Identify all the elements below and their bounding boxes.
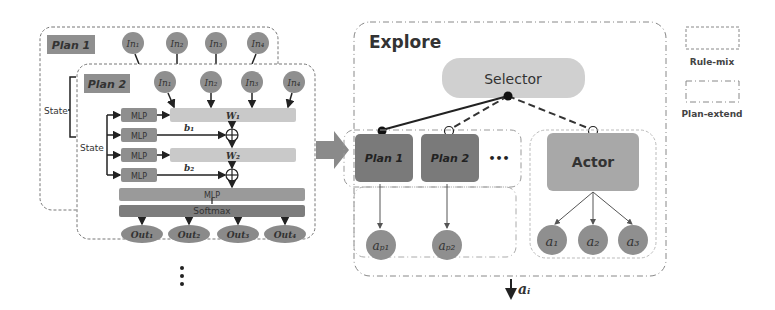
actor-action-2: a₂ xyxy=(587,234,600,249)
plan2-input-2: In₂ xyxy=(204,78,218,88)
plus-node-2 xyxy=(226,169,238,181)
state-label-outer: State xyxy=(44,106,68,116)
explore-plans-ellipsis: ••• xyxy=(488,152,509,165)
plan2-input-1: In₁ xyxy=(158,78,172,88)
w2-label: W₂ xyxy=(226,151,240,161)
softmax-bar-label: Softmax xyxy=(193,206,231,216)
actor-label: Actor xyxy=(572,154,614,170)
legend-plan-extend-swatch xyxy=(686,81,739,102)
plan1-input-1: In₁ xyxy=(126,39,140,49)
output-action: aᵢ xyxy=(518,281,530,297)
mlp-2: MLP xyxy=(131,132,147,141)
plan1-input-2: In₂ xyxy=(170,39,184,49)
actor-action-1: a₁ xyxy=(546,234,559,249)
output-4: Out₄ xyxy=(274,230,297,240)
explore-plan2-label: Plan 2 xyxy=(431,152,470,165)
plus-node-1 xyxy=(226,129,238,141)
mlp-1: MLP xyxy=(131,112,147,121)
explore-panel: Explore Selector Plan 1 Plan 2 ••• aₚ₁ a… xyxy=(344,22,666,276)
actor-action-3: a₃ xyxy=(627,234,640,249)
output-1: Out₁ xyxy=(131,230,154,240)
selector-label: Selector xyxy=(484,71,542,87)
plan1-input-4: In₄ xyxy=(251,39,265,49)
legend-rule-mix-swatch xyxy=(686,27,739,49)
plan2-input-3: In₃ xyxy=(245,78,259,88)
state-label-inner: State xyxy=(80,143,104,153)
plan-action-1: aₚ₁ xyxy=(373,239,390,253)
b2-label: b₂ xyxy=(184,163,194,173)
legend: Rule-mix Plan-extend xyxy=(681,27,742,119)
plan2-panel: Plan 2 In₁ In₂ In₃ In₄ State State MLP xyxy=(44,64,315,243)
mlp-4: MLP xyxy=(131,172,147,181)
mlp-3: MLP xyxy=(131,152,147,161)
legend-rule-mix-label: Rule-mix xyxy=(690,57,735,67)
diagram-canvas: Plan 1 In₁ In₂ In₃ In₄ Plan 2 In₁ In₂ In… xyxy=(0,0,775,310)
output-3: Out₃ xyxy=(227,230,250,240)
legend-plan-extend-label: Plan-extend xyxy=(681,109,742,119)
plan2-input-4: In₄ xyxy=(287,78,301,88)
plan2-title: Plan 2 xyxy=(88,78,127,91)
output-2: Out₂ xyxy=(178,230,201,240)
explore-title: Explore xyxy=(369,32,441,52)
explore-plan1-label: Plan 1 xyxy=(365,152,404,165)
plan-action-2: aₚ₂ xyxy=(439,239,456,253)
plan1-input-3: In₃ xyxy=(209,39,223,49)
w1-label: W₁ xyxy=(226,111,240,121)
b1-label: b₁ xyxy=(184,123,194,133)
plan1-title: Plan 1 xyxy=(52,39,91,52)
more-plans-ellipsis xyxy=(180,266,184,286)
